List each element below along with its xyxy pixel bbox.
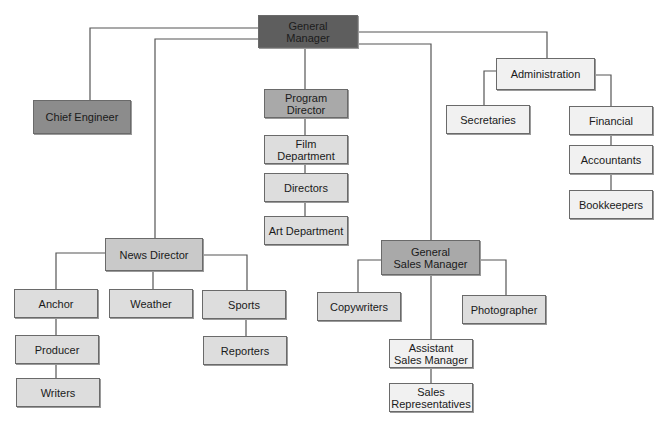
org-node-pd: Program Director — [264, 89, 348, 118]
org-node-label: Bookkeepers — [579, 199, 643, 211]
org-node-asm: Assistant Sales Manager — [389, 339, 473, 368]
connector-news-anc — [56, 253, 105, 289]
org-node-wea: Weather — [109, 289, 193, 318]
org-node-pro: Producer — [15, 335, 99, 364]
org-node-wri: Writers — [16, 378, 100, 407]
org-node-label: Film Department — [277, 138, 334, 162]
org-node-news: News Director — [105, 238, 203, 271]
org-chart: General ManagerChief EngineerProgram Dir… — [0, 0, 668, 425]
org-node-srep: Sales Representatives — [389, 383, 473, 412]
org-node-label: General Sales Manager — [394, 246, 468, 270]
org-node-anc: Anchor — [14, 289, 98, 318]
org-node-ce: Chief Engineer — [33, 100, 131, 134]
org-node-label: Reporters — [221, 345, 269, 357]
org-node-label: Anchor — [39, 298, 74, 310]
org-node-label: Producer — [35, 344, 80, 356]
org-node-label: Sales Representatives — [391, 386, 471, 410]
org-node-label: Art Department — [269, 225, 344, 237]
connector-news-spo — [203, 255, 247, 290]
org-node-label: Sports — [228, 299, 260, 311]
connector-gm-news — [155, 39, 258, 238]
org-node-adm: Administration — [496, 58, 595, 90]
org-node-film: Film Department — [264, 135, 348, 164]
org-node-gsm: General Sales Manager — [381, 240, 480, 275]
org-node-photo: Photographer — [462, 295, 546, 324]
org-node-label: Program Director — [265, 92, 347, 116]
org-node-dir: Directors — [264, 173, 348, 202]
org-node-book: Bookkeepers — [569, 190, 653, 219]
org-node-label: Assistant Sales Manager — [394, 342, 468, 366]
org-node-gm: General Manager — [258, 15, 358, 48]
connector-gsm-copy — [358, 260, 381, 292]
org-node-label: General Manager — [286, 20, 329, 44]
org-node-fin: Financial — [569, 106, 653, 135]
org-node-label: Copywriters — [330, 301, 388, 313]
connector-gm-gsm — [358, 44, 431, 240]
org-node-label: News Director — [119, 249, 188, 261]
org-node-copy: Copywriters — [317, 292, 401, 321]
org-node-art: Art Department — [264, 216, 348, 245]
connector-gm-adm — [358, 32, 547, 58]
connector-gsm-photo — [480, 260, 506, 295]
org-node-label: Writers — [41, 387, 76, 399]
org-node-label: Directors — [284, 182, 328, 194]
connector-adm-sec — [484, 71, 496, 105]
org-node-label: Chief Engineer — [46, 111, 119, 123]
org-node-label: Administration — [511, 68, 581, 80]
org-node-sec: Secretaries — [446, 105, 530, 134]
org-node-label: Financial — [589, 115, 633, 127]
org-node-label: Photographer — [471, 304, 538, 316]
connector-adm-fin — [595, 75, 611, 106]
org-node-label: Weather — [130, 298, 171, 310]
org-node-rep: Reporters — [203, 336, 287, 365]
org-node-label: Secretaries — [460, 114, 516, 126]
org-node-spo: Sports — [202, 290, 286, 319]
org-node-label: Accountants — [581, 154, 642, 166]
org-node-acc: Accountants — [569, 145, 653, 174]
